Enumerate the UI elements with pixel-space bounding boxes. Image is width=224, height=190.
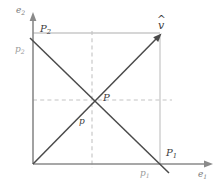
ascending-vector-line: [33, 38, 157, 164]
figure-canvas: [0, 0, 224, 190]
y-axis-arrowhead: [30, 12, 37, 21]
vector-tip-label: ^v: [158, 20, 164, 31]
y-axis-label: e2: [16, 6, 25, 16]
descending-line: [30, 38, 169, 173]
point-label-p1: p1: [140, 169, 150, 179]
point-label-P1: P1: [166, 148, 177, 159]
vector-decomposition-figure: e2 e1 ^v P2 p2 P p P1 p1: [0, 0, 224, 190]
point-label-p2: p2: [15, 45, 25, 55]
point-label-P: P: [103, 93, 110, 103]
x-axis-arrowhead: [204, 161, 213, 168]
vector-hat-accent: ^: [157, 14, 166, 24]
x-axis-label: e1: [198, 170, 207, 180]
point-label-p: p: [79, 117, 85, 126]
point-label-P2: P2: [40, 24, 51, 35]
